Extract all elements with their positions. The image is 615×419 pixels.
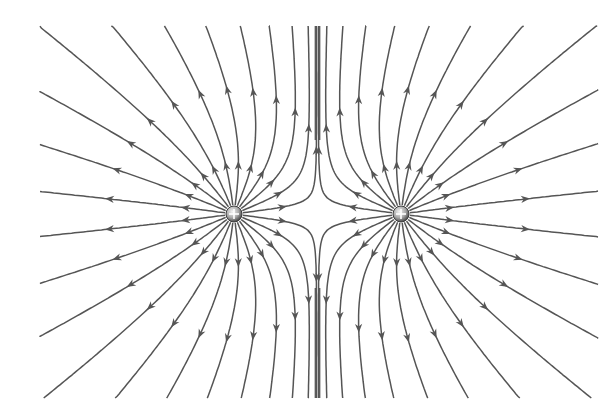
field-lines (40, 26, 598, 398)
arrowhead-icon (191, 182, 200, 190)
field-line (243, 26, 317, 213)
field-line (340, 26, 394, 209)
field-line (240, 26, 277, 207)
field-line (40, 191, 225, 212)
arrowhead-icon (127, 279, 137, 287)
arrowhead-icon (435, 238, 444, 246)
arrowhead-icon (499, 141, 509, 149)
field-line (318, 26, 392, 213)
field-line (40, 215, 225, 236)
field-line (40, 144, 226, 210)
field-line (409, 217, 598, 284)
field-line (397, 26, 430, 205)
arrowhead-icon (127, 141, 137, 149)
field-line (207, 223, 238, 398)
arrowhead-icon (456, 101, 464, 110)
arrowhead-icon (191, 238, 200, 246)
field-line (404, 26, 523, 206)
field-line (379, 222, 397, 398)
field-line (402, 223, 468, 398)
field-line (359, 221, 396, 398)
field-line (241, 220, 295, 399)
field-line (237, 26, 255, 206)
field-line (40, 91, 227, 209)
field-line (115, 222, 230, 398)
charges (226, 206, 409, 222)
field-line (241, 26, 295, 209)
field-line (410, 215, 598, 237)
field-line (402, 26, 470, 205)
charge-left (226, 206, 242, 222)
field-line (404, 222, 519, 398)
field-line (408, 90, 598, 209)
field-arrows (105, 86, 530, 343)
field-line-diagram (0, 0, 615, 419)
field-line (40, 220, 227, 338)
field-line (243, 215, 317, 398)
field-line (397, 223, 428, 398)
arrowhead-icon (171, 318, 179, 327)
field-line (44, 221, 229, 398)
field-line (237, 222, 255, 398)
field-line (410, 191, 598, 213)
arrowhead-icon (435, 182, 444, 190)
charge-right (393, 206, 409, 222)
field-line (40, 217, 226, 283)
field-line (409, 144, 598, 211)
field-lines-canvas (0, 0, 615, 419)
field-line (164, 26, 232, 205)
field-line (379, 26, 397, 206)
arrowhead-icon (499, 279, 509, 287)
arrowhead-icon (456, 318, 464, 327)
field-line (408, 220, 598, 339)
field-line (206, 26, 239, 205)
field-line (340, 220, 394, 399)
field-line (111, 26, 230, 206)
field-line (407, 221, 592, 398)
arrowhead-icon (171, 101, 179, 110)
field-line (407, 26, 598, 207)
field-line (240, 221, 277, 398)
field-line (318, 215, 392, 398)
field-line (359, 26, 396, 207)
field-line (167, 223, 233, 398)
